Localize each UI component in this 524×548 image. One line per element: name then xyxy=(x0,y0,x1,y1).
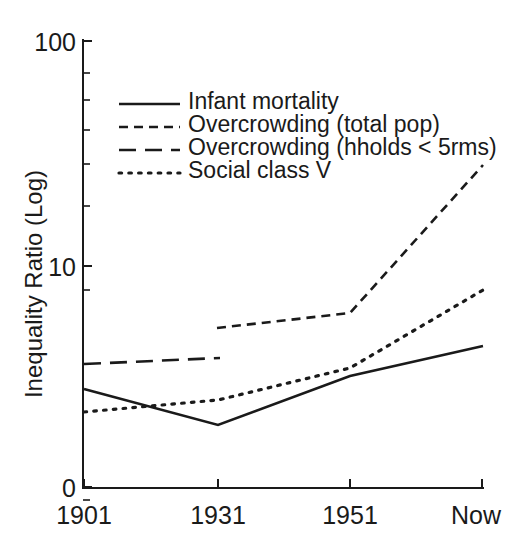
legend-item-overcrowding-total-pop: Overcrowding (total pop) xyxy=(188,111,497,134)
x-tick-label-now: Now xyxy=(428,503,524,528)
series-line-overcrowding-total-pop xyxy=(217,165,483,328)
y-tick-label-0: 0 xyxy=(20,476,76,501)
chart-plot-area xyxy=(0,0,524,548)
legend-item-overcrowding-hholds: Overcrowding (hholds < 5rms) xyxy=(188,134,497,157)
chart-figure: Inequality Ratio (Log) 100 10 0 1901 193… xyxy=(0,0,524,548)
series-line-infant-mortality xyxy=(84,346,483,425)
chart-legend: Infant mortality Overcrowding (total pop… xyxy=(188,88,497,180)
legend-label-social-class-v: Social class V xyxy=(188,157,331,183)
y-tick-label-10: 10 xyxy=(20,255,76,280)
y-axis-title: Inequality Ratio (Log) xyxy=(20,154,48,414)
legend-item-infant-mortality: Infant mortality xyxy=(188,88,497,111)
legend-item-social-class-v: Social class V xyxy=(188,157,497,180)
y-tick-label-100: 100 xyxy=(20,30,76,55)
series-line-overcrowding-hholds xyxy=(84,358,220,364)
x-tick-label-1901: 1901 xyxy=(30,503,138,528)
x-tick-label-1931: 1931 xyxy=(164,503,272,528)
series-line-social-class-v xyxy=(84,290,483,412)
x-tick-label-1951: 1951 xyxy=(296,503,404,528)
